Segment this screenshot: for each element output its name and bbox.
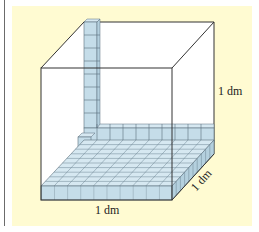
width-label: 1 dm [95, 203, 120, 217]
height-label: 1 dm [218, 84, 243, 98]
column-of-cubes [84, 19, 100, 128]
cube-diagram: 1 dm 1 dm 1 dm [0, 0, 259, 232]
